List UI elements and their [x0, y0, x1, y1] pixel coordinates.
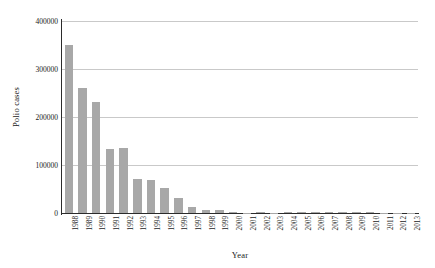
bars-layer: [62, 21, 418, 213]
plot-area: [62, 21, 418, 213]
x-tick-label: 1989: [86, 216, 94, 230]
bar: [284, 212, 292, 213]
x-axis-title: Year: [62, 250, 418, 260]
bar: [229, 212, 237, 213]
bar: [133, 179, 141, 213]
y-axis-ticks: 0100000200000300000400000: [26, 0, 58, 268]
y-axis-title: Polio cases: [8, 0, 24, 213]
x-tick-label: 2012: [400, 216, 408, 230]
y-axis-title-text: Polio cases: [11, 86, 21, 126]
x-tick-label: 1992: [127, 216, 135, 230]
bar: [338, 212, 346, 213]
bar: [311, 212, 319, 213]
bar: [160, 188, 168, 213]
y-tick-label: 0: [54, 209, 58, 218]
bar: [352, 212, 360, 213]
x-tick-label: 1988: [72, 216, 80, 230]
bar: [202, 210, 210, 213]
x-tick-label: 2002: [264, 216, 272, 230]
x-tick-label: 2009: [359, 216, 367, 230]
x-tick-label: 2000: [236, 216, 244, 230]
x-tick-label: 1998: [209, 216, 217, 230]
y-tick-label: 100000: [36, 161, 59, 170]
x-tick-label: 1990: [99, 216, 107, 230]
bar: [65, 45, 73, 213]
bar: [92, 102, 100, 213]
x-tick-label: 2007: [332, 216, 340, 230]
x-tick-label: 1999: [222, 216, 230, 230]
x-tick-label: 1996: [181, 216, 189, 230]
bar: [174, 198, 182, 213]
bar: [188, 207, 196, 213]
bar: [256, 212, 264, 213]
y-tick-label: 200000: [36, 113, 59, 122]
bar: [119, 148, 127, 213]
bar: [215, 210, 223, 213]
x-axis-title-text: Year: [232, 250, 248, 260]
bar: [325, 212, 333, 213]
x-tick-label: 2005: [305, 216, 313, 230]
bar: [106, 149, 114, 213]
x-tick-label: 1991: [113, 216, 121, 230]
bar: [78, 88, 86, 213]
x-tick-label: 2011: [387, 216, 395, 230]
x-tick-label: 2001: [250, 216, 258, 230]
x-tick-label: 2003: [277, 216, 285, 230]
bar: [297, 212, 305, 213]
x-tick-label: 1995: [168, 216, 176, 230]
bar: [147, 180, 155, 213]
x-tick-label: 1997: [195, 216, 203, 230]
x-tick-label: 1993: [140, 216, 148, 230]
y-tick-label: 400000: [36, 17, 59, 26]
x-axis-ticks: 1988198919901991199219931994199519961997…: [62, 214, 418, 248]
x-tick-label: 2006: [318, 216, 326, 230]
bar-chart-figure: Polio cases 0100000200000300000400000 19…: [0, 0, 435, 268]
bar: [366, 212, 374, 213]
x-tick-label: 2010: [373, 216, 381, 230]
x-tick-label: 2004: [291, 216, 299, 230]
x-tick-label: 2013: [414, 216, 422, 230]
x-tick-label: 1994: [154, 216, 162, 230]
x-tick-label: 2008: [346, 216, 354, 230]
y-tick-label: 300000: [36, 65, 59, 74]
